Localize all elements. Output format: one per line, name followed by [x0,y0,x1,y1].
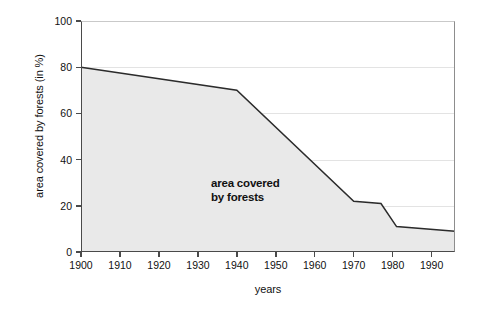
x-tick-mark [197,252,198,257]
plot-area: area covered by forests [81,21,455,252]
x-tick-mark [314,252,315,257]
x-tick-mark [119,252,120,257]
x-tick-mark [431,252,432,257]
x-tick-label: 1900 [59,260,103,271]
y-tick-label: 100 [36,16,72,27]
x-tick-label: 1980 [371,260,415,271]
x-tick-mark [353,252,354,257]
x-tick-mark [80,252,81,257]
x-tick-label: 1960 [293,260,337,271]
x-tick-label: 1970 [332,260,376,271]
y-tick-label: 80 [36,62,72,73]
x-tick-label: 1910 [98,260,142,271]
x-tick-mark [392,252,393,257]
x-tick-label: 1990 [410,260,454,271]
x-tick-mark [158,252,159,257]
x-tick-mark [236,252,237,257]
x-tick-label: 1930 [176,260,220,271]
y-tick-label: 60 [36,108,72,119]
chart-figure: area covered by forests (in %) 0 20 40 6… [0,0,478,309]
plot-frame [81,21,455,252]
y-tick-label: 20 [36,201,72,212]
y-tick-label: 40 [36,155,72,166]
x-tick-mark [275,252,276,257]
x-tick-label: 1940 [215,260,259,271]
x-axis-title: years [81,283,455,295]
x-tick-label: 1950 [254,260,298,271]
x-tick-label: 1920 [137,260,181,271]
